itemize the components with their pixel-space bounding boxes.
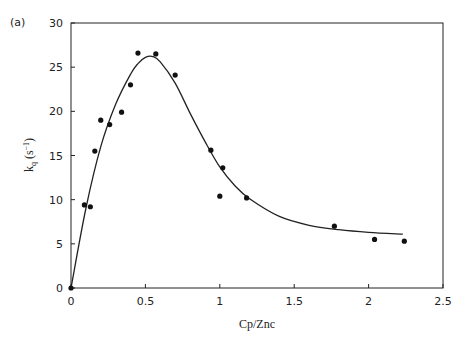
y-tick-label: 30 xyxy=(49,17,63,30)
data-point xyxy=(220,165,225,170)
y-tick-label: 20 xyxy=(49,105,63,118)
data-point xyxy=(208,148,213,153)
data-point xyxy=(68,285,73,290)
y-label-close: ) xyxy=(22,138,36,142)
data-point xyxy=(244,195,249,200)
data-point xyxy=(92,148,97,153)
y-axis-label: kq(s−1) xyxy=(22,138,38,172)
data-point xyxy=(98,118,103,123)
x-tick-label: 2.5 xyxy=(434,295,452,308)
svg-text:kq(s−1): kq(s−1) xyxy=(22,138,38,172)
data-point xyxy=(372,237,377,242)
y-tick-label: 25 xyxy=(49,61,63,74)
y-tick-label: 0 xyxy=(56,282,63,295)
y-tick-label: 5 xyxy=(56,238,63,251)
x-axis-label: Cp/Znc xyxy=(239,317,275,331)
data-point xyxy=(332,224,337,229)
panel-label: (a) xyxy=(10,16,25,29)
y-label-sub: q xyxy=(29,162,38,166)
y-tick-label: 15 xyxy=(49,150,63,163)
x-tick-label: 0 xyxy=(68,295,75,308)
data-points xyxy=(68,50,407,290)
x-tick-label: 1.5 xyxy=(285,295,303,308)
data-point xyxy=(107,122,112,127)
x-tick-label: 2 xyxy=(365,295,372,308)
x-tick-label: 1 xyxy=(216,295,223,308)
data-point xyxy=(135,50,140,55)
data-point xyxy=(217,194,222,199)
data-point xyxy=(88,204,93,209)
plot-frame xyxy=(71,23,443,288)
data-point xyxy=(402,239,407,244)
data-point xyxy=(173,73,178,78)
fit-curve xyxy=(71,56,403,288)
data-point xyxy=(128,82,133,87)
data-point xyxy=(153,51,158,56)
y-label-unit: (s xyxy=(22,150,36,159)
y-tick-label: 10 xyxy=(49,194,63,207)
y-label-exp: −1 xyxy=(22,142,31,151)
chart: (a) 00.511.522.5 051015202530 Cp/Znc kq(… xyxy=(0,0,473,352)
data-point xyxy=(119,110,124,115)
x-tick-label: 0.5 xyxy=(137,295,155,308)
data-point xyxy=(82,202,87,207)
